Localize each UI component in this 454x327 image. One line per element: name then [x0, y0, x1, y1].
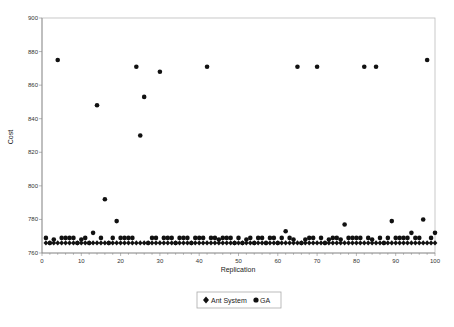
- data-point: [272, 236, 277, 241]
- y-tick-label: 820: [28, 149, 39, 155]
- data-point: [413, 236, 418, 241]
- data-point: [433, 240, 438, 245]
- data-point: [110, 236, 115, 241]
- x-tick-label: 80: [353, 258, 360, 264]
- data-point: [142, 95, 147, 100]
- legend-item-ga: GA: [253, 297, 270, 304]
- data-point: [307, 236, 312, 241]
- data-point: [138, 133, 143, 138]
- data-point: [323, 241, 328, 246]
- data-point: [334, 236, 339, 241]
- data-point: [397, 236, 402, 241]
- data-point: [220, 236, 225, 241]
- data-point: [103, 197, 108, 202]
- data-point: [244, 237, 249, 242]
- data-point: [79, 237, 84, 242]
- y-tick-label: 780: [28, 216, 39, 222]
- data-point: [433, 231, 438, 236]
- data-point: [185, 236, 190, 241]
- data-point: [421, 217, 426, 222]
- x-tick-label: 40: [196, 258, 203, 264]
- legend-label-ant-system: Ant System: [211, 297, 247, 305]
- data-point: [342, 222, 347, 227]
- data-point: [295, 64, 300, 69]
- data-point: [217, 237, 222, 242]
- x-tick-label: 100: [430, 258, 441, 264]
- data-point: [122, 236, 127, 241]
- data-point: [350, 236, 355, 241]
- data-point: [63, 236, 68, 241]
- data-point: [126, 236, 131, 241]
- data-point: [197, 236, 202, 241]
- data-point: [99, 236, 104, 241]
- data-point: [44, 236, 49, 241]
- data-point: [417, 236, 422, 241]
- series-ga: [44, 58, 438, 246]
- data-point: [283, 229, 288, 234]
- data-point: [59, 236, 64, 241]
- data-point: [177, 236, 182, 241]
- data-point: [158, 69, 163, 74]
- data-point: [189, 241, 194, 246]
- data-point: [362, 64, 367, 69]
- data-point: [252, 241, 257, 246]
- data-point: [134, 64, 139, 69]
- data-point: [327, 237, 332, 242]
- legend: Ant System GA: [197, 292, 281, 308]
- data-point: [75, 241, 80, 246]
- y-tick-label: 860: [28, 82, 39, 88]
- data-point: [382, 241, 387, 246]
- data-point: [370, 237, 375, 242]
- data-point: [260, 236, 265, 241]
- x-tick-label: 70: [314, 258, 321, 264]
- data-point: [354, 236, 359, 241]
- data-point: [299, 241, 304, 246]
- data-point: [311, 236, 316, 241]
- data-point: [228, 236, 233, 241]
- data-point: [91, 231, 96, 236]
- data-point: [193, 236, 198, 241]
- x-tick-label: 0: [40, 258, 44, 264]
- data-point: [331, 236, 336, 241]
- data-point: [346, 236, 351, 241]
- x-tick-label: 60: [274, 258, 281, 264]
- legend-label-ga: GA: [260, 297, 270, 304]
- data-point: [95, 103, 100, 108]
- x-tick-label: 10: [78, 258, 85, 264]
- data-point: [429, 236, 434, 241]
- data-point: [279, 236, 284, 241]
- data-point: [146, 241, 151, 246]
- data-point: [287, 236, 292, 241]
- data-point: [173, 241, 178, 246]
- data-point: [358, 236, 363, 241]
- data-point: [181, 236, 186, 241]
- data-point: [303, 237, 308, 242]
- data-point: [240, 241, 245, 246]
- data-point: [315, 64, 320, 69]
- data-point: [213, 236, 218, 241]
- data-point: [48, 241, 53, 246]
- data-point: [409, 231, 414, 236]
- plot-area: [42, 18, 435, 253]
- data-point: [205, 64, 210, 69]
- y-tick-label: 800: [28, 183, 39, 189]
- data-point: [114, 219, 119, 224]
- circle-marker-icon: [253, 297, 258, 302]
- data-point: [401, 236, 406, 241]
- data-point: [118, 236, 123, 241]
- data-point: [276, 241, 281, 246]
- data-point: [162, 236, 167, 241]
- data-point: [107, 241, 112, 246]
- data-point: [83, 236, 88, 241]
- data-point: [366, 236, 371, 241]
- y-axis-title: Cost: [7, 130, 14, 144]
- data-point: [169, 236, 174, 241]
- data-point: [224, 236, 229, 241]
- data-point: [201, 236, 206, 241]
- data-point: [154, 236, 159, 241]
- x-axis: 0102030405060708090100: [40, 253, 440, 264]
- data-point: [425, 58, 430, 63]
- data-point: [55, 58, 60, 63]
- data-point: [378, 236, 383, 241]
- data-point: [405, 236, 410, 241]
